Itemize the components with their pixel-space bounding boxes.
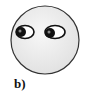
right-eye-icon <box>45 26 65 39</box>
left-eye-icon <box>16 26 34 39</box>
face-figure <box>0 0 89 80</box>
face-circle <box>11 6 79 74</box>
figure-caption: b) <box>14 76 26 92</box>
